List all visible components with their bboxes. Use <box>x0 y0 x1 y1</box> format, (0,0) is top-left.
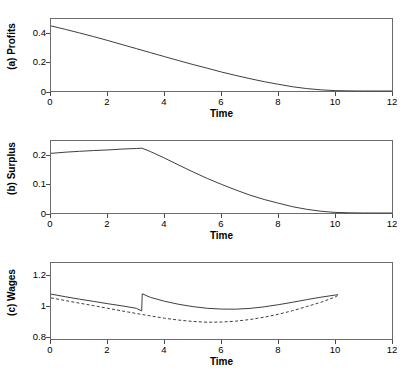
panel-c-x-axis-title: Time <box>50 356 393 367</box>
panel-c-y-tick-labels: 0.8 1 1.2 <box>14 262 46 340</box>
panel-b-plot-area <box>50 140 393 214</box>
panel-c-xtick-4: 4 <box>152 345 176 355</box>
profits-curve <box>51 26 392 91</box>
figure-three-panel-timeseries: (a) Profits 0 0.2 0.4 0 2 4 6 8 10 12 Ti… <box>0 0 419 374</box>
panel-wages: (c) Wages 0.8 1 1.2 0 2 4 6 8 10 12 Tim <box>0 244 419 374</box>
panel-c-xtick-8: 8 <box>266 345 290 355</box>
wages-dashed-curve <box>51 295 338 322</box>
panel-a-x-axis-title: Time <box>50 108 393 119</box>
panel-c-ytick-1p2: 1.2 <box>18 270 46 280</box>
panel-b-xtick-10: 10 <box>323 219 347 229</box>
panel-c-xtick-2: 2 <box>95 345 119 355</box>
wages-solid-curve <box>51 294 338 311</box>
panel-c-xtick-0: 0 <box>38 345 62 355</box>
panel-b-xtick-0: 0 <box>38 219 62 229</box>
panel-b-xtick-2: 2 <box>95 219 119 229</box>
panel-c-curve-layer <box>51 263 392 339</box>
panel-b-x-axis-title: Time <box>50 230 393 241</box>
panel-a-xtick-10: 10 <box>323 97 347 107</box>
panel-a-xtick-2: 2 <box>95 97 119 107</box>
panel-a-ytick-0p4: 0.4 <box>18 28 46 38</box>
panel-b-ytick-0: 0 <box>18 209 46 219</box>
panel-c-ytick-1: 1 <box>18 301 46 311</box>
panel-a-xtick-6: 6 <box>209 97 233 107</box>
panel-b-xtick-6: 6 <box>209 219 233 229</box>
panel-b-xtick-4: 4 <box>152 219 176 229</box>
panel-b-xtick-12: 12 <box>380 219 404 229</box>
panel-a-y-tick-labels: 0 0.2 0.4 <box>14 18 46 92</box>
panel-c-plot-area <box>50 262 393 340</box>
panel-b-ytick-0p1: 0.1 <box>18 180 46 190</box>
surplus-curve <box>51 148 392 213</box>
panel-c-xtick-10: 10 <box>323 345 347 355</box>
panel-b-ytick-0p2: 0.2 <box>18 150 46 160</box>
panel-a-xtick-12: 12 <box>380 97 404 107</box>
panel-a-plot-area <box>50 18 393 92</box>
panel-profits: (a) Profits 0 0.2 0.4 0 2 4 6 8 10 12 Ti… <box>0 0 419 122</box>
panel-b-curve-layer <box>51 141 392 213</box>
panel-c-xtick-12: 12 <box>380 345 404 355</box>
panel-a-xtick-8: 8 <box>266 97 290 107</box>
panel-a-curve-layer <box>51 19 392 91</box>
panel-a-xtick-4: 4 <box>152 97 176 107</box>
panel-b-y-tick-labels: 0 0.1 0.2 <box>14 140 46 214</box>
panel-a-ytick-0p2: 0.2 <box>18 58 46 68</box>
panel-surplus: (b) Surplus 0 0.1 0.2 0 2 4 6 8 10 12 Ti… <box>0 122 419 244</box>
panel-c-ytick-0p8: 0.8 <box>18 332 46 342</box>
panel-b-xtick-8: 8 <box>266 219 290 229</box>
panel-c-xtick-6: 6 <box>209 345 233 355</box>
panel-a-ytick-0: 0 <box>18 87 46 97</box>
panel-a-xtick-0: 0 <box>38 97 62 107</box>
